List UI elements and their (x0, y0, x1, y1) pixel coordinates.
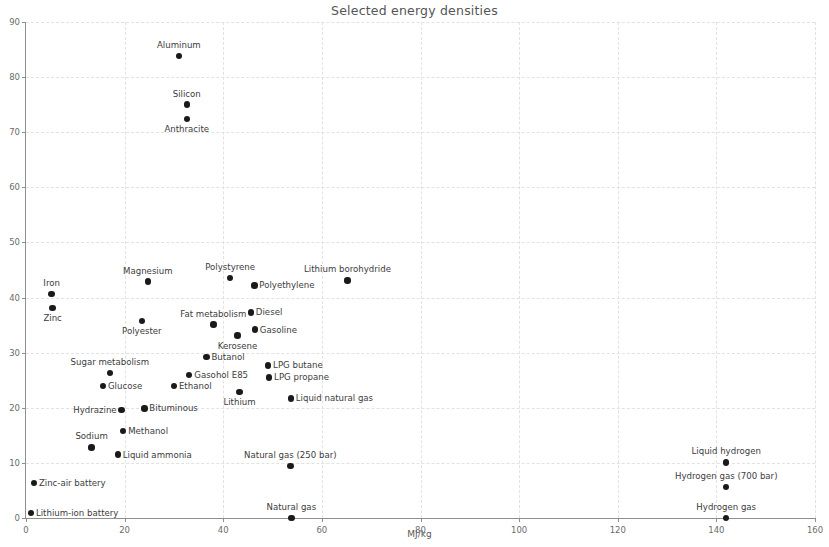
y-tick-label: 70 (4, 127, 20, 137)
data-point-marker[interactable] (251, 282, 257, 288)
data-point-marker[interactable] (176, 53, 182, 59)
data-point-marker[interactable] (252, 326, 258, 332)
data-point-marker[interactable] (723, 515, 729, 521)
gridline-vertical (421, 22, 422, 518)
data-point-marker[interactable] (115, 451, 121, 457)
data-point-marker[interactable] (266, 374, 272, 380)
data-point-label: LPG butane (273, 361, 323, 370)
data-point-label: Fat metabolism (180, 310, 246, 319)
data-point-label: Kerosene (218, 342, 258, 351)
data-point-marker[interactable] (184, 101, 190, 107)
data-point-label: Ethanol (179, 381, 212, 390)
y-tick (22, 463, 26, 464)
data-point-marker[interactable] (723, 484, 729, 490)
data-point-label: Zinc-air battery (39, 479, 106, 488)
data-point-marker[interactable] (141, 405, 147, 411)
data-point-marker[interactable] (118, 407, 124, 413)
data-point-label: Liquid ammonia (123, 450, 192, 459)
data-point-marker[interactable] (186, 372, 192, 378)
y-tick (22, 298, 26, 299)
data-point-label: Anthracite (164, 125, 209, 134)
data-point-marker[interactable] (210, 321, 216, 327)
data-point-label: Liquid natural gas (296, 394, 373, 403)
data-point-label: Sodium (75, 433, 107, 442)
data-point-marker[interactable] (288, 515, 294, 521)
data-point-marker[interactable] (344, 277, 350, 283)
data-point-marker[interactable] (31, 480, 37, 486)
y-tick (22, 132, 26, 133)
data-point-label: Glucose (108, 382, 142, 391)
data-point-marker[interactable] (49, 305, 55, 311)
data-point-marker[interactable] (139, 318, 145, 324)
y-tick-label: 80 (4, 72, 20, 82)
data-point-label: Silicon (173, 90, 201, 99)
data-point-marker[interactable] (723, 459, 729, 465)
data-point-label: Zinc (43, 314, 61, 323)
data-point-label: Natural gas (250 bar) (244, 452, 336, 461)
gridline-horizontal (26, 298, 815, 299)
y-tick (22, 353, 26, 354)
y-tick-label: 50 (4, 237, 20, 247)
gridline-vertical (716, 22, 717, 518)
data-point-label: Aluminum (157, 42, 201, 51)
data-point-label: Polyester (122, 327, 162, 336)
data-point-label: Diesel (256, 308, 282, 317)
x-tick (618, 518, 619, 522)
chart-title: Selected energy densities (0, 3, 829, 18)
data-point-label: Lithium (223, 398, 255, 407)
x-axis-label: MJ/kg (25, 529, 814, 539)
y-tick (22, 187, 26, 188)
data-point-marker[interactable] (287, 463, 293, 469)
data-point-label: Polystyrene (205, 264, 255, 273)
data-point-label: Methanol (128, 427, 168, 436)
y-tick-label: 10 (4, 458, 20, 468)
data-point-marker[interactable] (100, 383, 106, 389)
data-point-marker[interactable] (48, 291, 54, 297)
data-point-marker[interactable] (248, 309, 254, 315)
y-tick (22, 77, 26, 78)
data-point-marker[interactable] (145, 278, 151, 284)
data-point-marker[interactable] (171, 383, 177, 389)
data-point-label: Lithium borohydride (304, 266, 391, 275)
plot-area: 0204060801001201401600102030405060708090… (25, 22, 815, 519)
y-tick-label: 20 (4, 403, 20, 413)
y-tick-label: 40 (4, 293, 20, 303)
data-point-marker[interactable] (234, 332, 240, 338)
data-point-label: Magnesium (123, 267, 173, 276)
y-tick (22, 408, 26, 409)
x-tick (322, 518, 323, 522)
x-tick (421, 518, 422, 522)
data-point-label: Hydrogen gas (700 bar) (675, 473, 778, 482)
data-point-label: Hydrazine (73, 406, 116, 415)
gridline-horizontal (26, 132, 815, 133)
data-point-marker[interactable] (288, 395, 294, 401)
data-point-marker[interactable] (227, 275, 233, 281)
y-tick-label: 60 (4, 182, 20, 192)
data-point-label: Natural gas (266, 503, 316, 512)
y-tick (22, 22, 26, 23)
gridline-horizontal (26, 353, 815, 354)
data-point-label: Butanol (211, 353, 244, 362)
data-point-marker[interactable] (88, 444, 94, 450)
y-tick-label: 0 (4, 513, 20, 523)
x-tick (815, 518, 816, 522)
x-tick (716, 518, 717, 522)
x-tick (519, 518, 520, 522)
data-point-marker[interactable] (203, 354, 209, 360)
data-point-label: LPG propane (274, 373, 329, 382)
data-point-marker[interactable] (236, 389, 242, 395)
data-point-marker[interactable] (184, 116, 190, 122)
data-point-label: Polyethylene (259, 281, 314, 290)
data-point-marker[interactable] (107, 370, 113, 376)
gridline-horizontal (26, 463, 815, 464)
data-point-marker[interactable] (28, 510, 34, 516)
data-point-label: Gasoline (260, 325, 297, 334)
gridline-horizontal (26, 242, 815, 243)
gridline-vertical (815, 22, 816, 518)
data-point-label: Gasohol E85 (194, 371, 248, 380)
data-point-marker[interactable] (265, 362, 271, 368)
gridline-vertical (618, 22, 619, 518)
data-point-label: Hydrogen gas (696, 503, 756, 512)
gridline-vertical (519, 22, 520, 518)
x-tick (223, 518, 224, 522)
